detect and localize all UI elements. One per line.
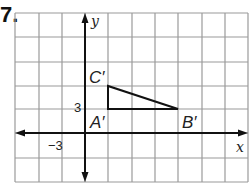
- y-axis-arrow-down-icon: [82, 172, 89, 182]
- y-axis-arrow-up-icon: [82, 13, 89, 23]
- x-tick-label-neg3: −3: [48, 139, 63, 152]
- vertex-label-a-prime: A′: [90, 114, 105, 131]
- y-axis-label: y: [91, 14, 99, 28]
- coordinate-grid: [0, 0, 250, 186]
- x-axis-label: x: [236, 140, 244, 154]
- vertex-label-b-prime: B′: [182, 114, 197, 131]
- grid-lines: [15, 13, 248, 182]
- y-axis: [82, 13, 89, 182]
- x-axis-arrow-left-icon: [15, 130, 25, 137]
- x-axis-arrow-right-icon: [238, 130, 248, 137]
- y-tick-label-3: 3: [74, 101, 81, 114]
- vertex-label-c-prime: C′: [89, 69, 104, 86]
- triangle-abc-prime: [108, 86, 178, 109]
